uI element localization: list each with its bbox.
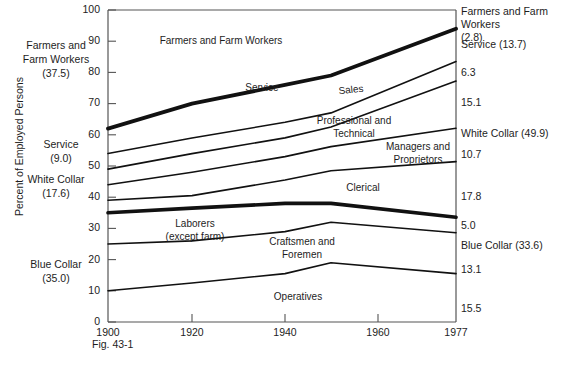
band-label-professional-and-technical: Professional and Technical [295, 114, 413, 140]
right-label-sales: 6.3 [461, 66, 579, 79]
band-label-laborers: Laborers (except farm) [146, 217, 244, 243]
x-tick-marks [192, 314, 378, 322]
band-label-craftsmen-and-foremen: Craftsmen and Foremen [250, 235, 354, 261]
y-tick-10: 10 [74, 284, 100, 296]
right-label-blue-collar: Blue Collar (33.6) [461, 239, 579, 252]
band-label-service: Service [232, 81, 292, 94]
right-label-clerical: 17.8 [461, 190, 579, 203]
y-tick-marks [108, 10, 116, 322]
figure-caption: Fig. 43-1 [92, 338, 133, 350]
figure-43-1: Percent of Employed Persons 100 90 80 70… [0, 0, 581, 365]
band-label-operatives: Operatives [258, 290, 338, 303]
y-tick-100: 100 [74, 3, 100, 15]
line-laborers-blue-collar-boundary [108, 203, 456, 217]
right-label-white-collar: White Collar (49.9) [461, 127, 579, 140]
line-operatives [108, 263, 456, 291]
left-label-blue-collar: Blue Collar (35.0) [8, 257, 104, 285]
x-tick-1940: 1940 [265, 326, 305, 338]
x-tick-1977: 1977 [436, 326, 476, 338]
y-tick-70: 70 [74, 96, 100, 108]
x-tick-1920: 1920 [172, 326, 212, 338]
band-label-farmers-and-farm-workers: Farmers and Farm Workers [131, 34, 311, 47]
left-label-white-collar: White Collar (17.6) [8, 172, 104, 200]
right-label-laborers: 5.0 [461, 219, 579, 232]
left-label-farmers-and-farm-workers: Farmers and Farm Workers (37.5) [8, 38, 104, 80]
line-clerical [108, 162, 456, 201]
y-tick-30: 30 [74, 221, 100, 233]
x-tick-1900: 1900 [88, 326, 128, 338]
band-label-clerical: Clerical [328, 181, 398, 194]
right-label-professional-and-technical: 15.1 [461, 96, 579, 109]
x-tick-1960: 1960 [358, 326, 398, 338]
right-label-managers-and-proprietors: 10.7 [461, 148, 579, 161]
right-label-operatives: 15.5 [461, 302, 579, 315]
right-label-service: Service (13.7) [461, 38, 579, 51]
right-label-craftsmen-and-foremen: 13.1 [461, 263, 579, 276]
left-label-service: Service (9.0) [18, 137, 104, 165]
band-label-managers-and-proprietors: Managers and Proprietors [375, 140, 461, 166]
